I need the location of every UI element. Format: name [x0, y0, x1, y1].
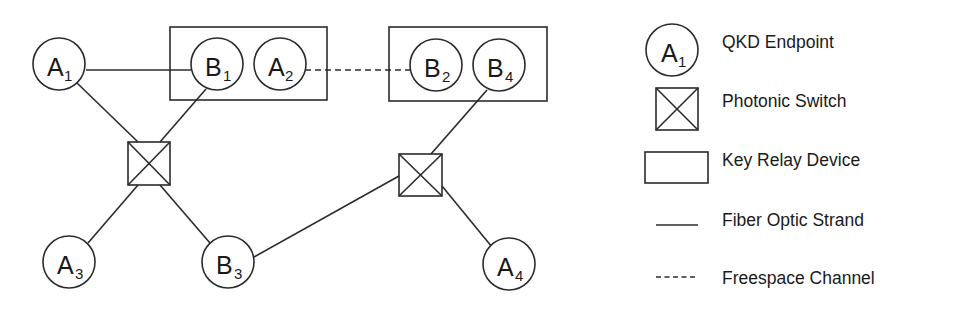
svg-text:A: A [268, 53, 285, 81]
svg-text:Fiber Optic Strand: Fiber Optic Strand [722, 210, 864, 230]
svg-text:3: 3 [234, 265, 242, 282]
svg-text:3: 3 [75, 265, 83, 282]
legend-item-photonic-switch: Photonic Switch [656, 88, 847, 130]
svg-text:B: B [424, 54, 441, 82]
legend-item-qkd-endpoint: A 1 QKD Endpoint [646, 24, 834, 76]
svg-text:1: 1 [223, 67, 231, 84]
photonic-switch-left [128, 142, 170, 185]
svg-text:Photonic Switch: Photonic Switch [722, 91, 847, 111]
legend-item-fiber-optic-strand: Fiber Optic Strand [656, 210, 864, 230]
svg-text:A: A [47, 53, 64, 81]
svg-text:QKD Endpoint: QKD Endpoint [722, 32, 834, 52]
fiber-link-b3-switch [254, 176, 399, 257]
endpoint-b3: B 3 [202, 236, 254, 288]
fiber-link-a1-switch [77, 83, 138, 142]
svg-text:1: 1 [64, 67, 72, 84]
svg-text:B: B [216, 251, 233, 279]
endpoint-b1: B 1 [191, 38, 243, 90]
endpoint-a4: A 4 [483, 238, 535, 290]
endpoint-b2: B 2 [410, 39, 462, 91]
fiber-link-b4-switch [431, 90, 487, 154]
endpoint-a1: A 1 [33, 38, 85, 90]
svg-text:2: 2 [285, 67, 293, 84]
qkd-network-diagram: A 1 B 1 A 2 B 2 B 4 A 3 B 3 A 4 A [0, 0, 959, 314]
svg-text:1: 1 [678, 53, 686, 70]
svg-text:B: B [487, 54, 504, 82]
endpoint-a2: A 2 [254, 38, 306, 90]
endpoint-a3: A 3 [43, 236, 95, 288]
fiber-link-switch-a3 [88, 185, 138, 243]
fiber-link-b1-switch [160, 89, 206, 142]
rectangle-icon [645, 152, 708, 183]
fiber-link-switch-a4 [442, 186, 492, 247]
photonic-switch-right [399, 154, 442, 196]
svg-text:A: A [661, 39, 678, 67]
svg-text:4: 4 [515, 267, 523, 284]
svg-text:A: A [497, 253, 514, 281]
svg-text:2: 2 [442, 68, 450, 85]
legend-item-freespace-channel: Freespace Channel [656, 268, 875, 288]
svg-text:Key Relay Device: Key Relay Device [722, 150, 860, 170]
fiber-link-switch-b3 [160, 185, 210, 243]
legend: A 1 QKD Endpoint Photonic Switch Key Rel… [645, 24, 875, 288]
svg-text:4: 4 [505, 68, 513, 85]
svg-text:A: A [57, 251, 74, 279]
legend-item-key-relay-device: Key Relay Device [645, 150, 860, 183]
svg-text:Freespace Channel: Freespace Channel [722, 268, 875, 288]
svg-text:B: B [205, 53, 222, 81]
crossed-square-icon [656, 88, 698, 130]
endpoint-b4: B 4 [473, 39, 525, 91]
